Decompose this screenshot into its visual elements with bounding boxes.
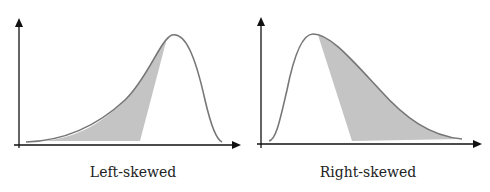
left-skewed-panel [14, 18, 241, 149]
right-shaded-area [318, 35, 462, 141]
right-skewed-panel [257, 17, 482, 148]
right-x-arrow-icon [473, 140, 482, 148]
right-skewed-label: Right-skewed [268, 164, 468, 180]
left-shaded-area [40, 38, 167, 141]
left-x-arrow-icon [232, 141, 241, 149]
left-skewed-label: Left-skewed [33, 164, 233, 180]
right-y-arrow-icon [257, 17, 265, 26]
left-y-arrow-icon [15, 18, 23, 27]
